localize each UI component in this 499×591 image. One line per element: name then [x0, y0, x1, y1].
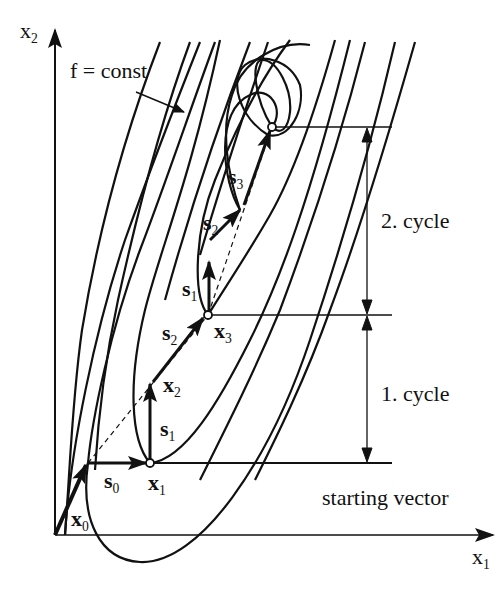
cycle-2-label: 2. cycle: [381, 210, 449, 232]
x2-axis-label: x2: [20, 20, 38, 45]
diagram-canvas: x2 x1 f = const 2. cycle 1. cycle starti…: [0, 0, 499, 591]
point-x3: [204, 311, 212, 319]
label-s2-cycle2: s2: [203, 212, 218, 237]
label-x1: x1: [148, 472, 166, 497]
x1-axis-label: x1: [472, 546, 490, 571]
vector-s3: [244, 131, 270, 205]
point-x-final: [268, 123, 276, 131]
axes: [55, 30, 493, 535]
vector-s2-cycle1: [153, 318, 203, 382]
starting-vector-label: starting vector: [322, 487, 448, 509]
label-x2: x2: [163, 374, 181, 399]
label-s0: s0: [104, 470, 119, 495]
label-x3: x3: [214, 320, 232, 345]
label-x0: x0: [71, 508, 89, 533]
label-s1-cycle2: s1: [182, 278, 197, 303]
label-s1-cycle1: s1: [160, 418, 175, 443]
label-s2-cycle1: s2: [162, 322, 177, 347]
point-x1: [146, 459, 154, 467]
label-s3: s3: [228, 166, 243, 191]
cycle-1-label: 1. cycle: [381, 383, 449, 405]
contour-label: f = const: [70, 60, 147, 82]
